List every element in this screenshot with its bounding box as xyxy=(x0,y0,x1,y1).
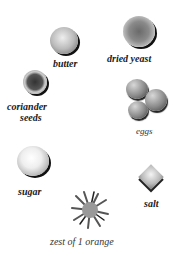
sugar-icon xyxy=(17,146,49,176)
orange-zest-label: zest of 1 orange xyxy=(50,236,114,247)
dried-yeast-label: dried yeast xyxy=(107,53,151,64)
coriander-seeds-icon xyxy=(23,70,47,94)
dried-yeast-icon xyxy=(123,16,155,47)
eggs-icon xyxy=(124,77,172,127)
eggs-label: eggs xyxy=(136,126,153,137)
coriander-label-line1: coriander xyxy=(7,101,47,112)
butter-icon xyxy=(50,27,78,54)
sugar-label: sugar xyxy=(18,186,41,197)
butter-label: butter xyxy=(53,58,77,69)
salt-label: salt xyxy=(144,198,158,209)
coriander-label-line2: seeds xyxy=(20,112,42,123)
salt-icon xyxy=(138,164,163,189)
orange-zest-icon xyxy=(70,190,110,230)
